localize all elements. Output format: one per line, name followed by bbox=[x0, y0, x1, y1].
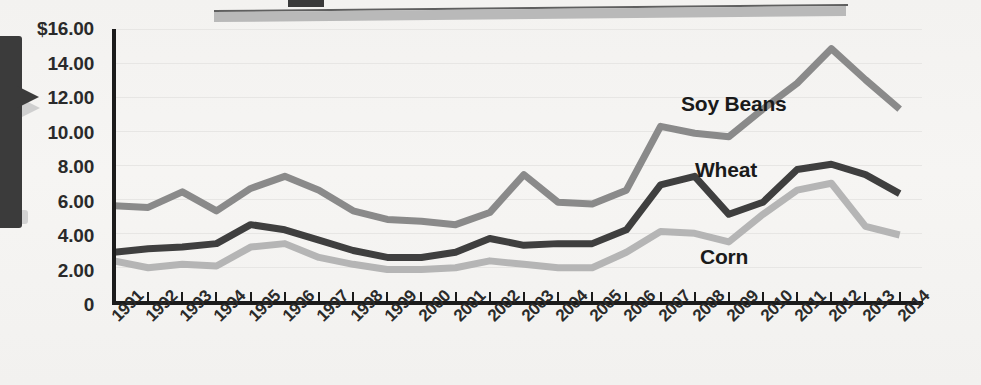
y-axis-tick-labels: 02.004.006.008.0010.0012.0014.00$16.00 bbox=[0, 0, 104, 385]
x-tick-2012 bbox=[830, 292, 832, 302]
x-tick-1996 bbox=[284, 292, 286, 302]
x-tick-1995 bbox=[250, 292, 252, 302]
x-tick-2014 bbox=[899, 292, 901, 302]
series-label-corn: Corn bbox=[700, 245, 748, 269]
x-tick-2003 bbox=[523, 292, 525, 302]
y-tick-label-12: 12.00 bbox=[0, 88, 104, 107]
x-tick-1994 bbox=[215, 292, 217, 302]
x-tick-2008 bbox=[694, 292, 696, 302]
x-tick-1992 bbox=[147, 292, 149, 302]
x-tick-2013 bbox=[864, 292, 866, 302]
plot-area bbox=[114, 28, 914, 304]
x-tick-2005 bbox=[591, 292, 593, 302]
x-tick-2010 bbox=[762, 292, 764, 302]
series-canvas bbox=[114, 28, 914, 304]
y-tick-label-0: 0 bbox=[0, 295, 104, 314]
y-tick-label-8: 8.00 bbox=[0, 157, 104, 176]
x-tick-2011 bbox=[796, 292, 798, 302]
x-tick-1993 bbox=[181, 292, 183, 302]
series-label-soy-beans: Soy Beans bbox=[681, 92, 787, 116]
y-tick-label-14: 14.00 bbox=[0, 54, 104, 73]
x-tick-2007 bbox=[660, 292, 662, 302]
chart-page: 02.004.006.008.0010.0012.0014.00$16.00 1… bbox=[0, 0, 981, 385]
x-tick-1998 bbox=[352, 292, 354, 302]
y-tick-label-4: 4.00 bbox=[0, 226, 104, 245]
x-tick-1999 bbox=[386, 292, 388, 302]
y-axis bbox=[112, 29, 116, 305]
x-tick-1997 bbox=[318, 292, 320, 302]
x-tick-2006 bbox=[625, 292, 627, 302]
y-tick-label-6: 6.00 bbox=[0, 192, 104, 211]
top-banner-chip bbox=[288, 0, 324, 7]
y-tick-label-16: $16.00 bbox=[0, 19, 104, 38]
x-tick-2001 bbox=[455, 292, 457, 302]
x-tick-1991 bbox=[113, 292, 115, 302]
series-label-wheat: Wheat bbox=[695, 158, 757, 182]
series-line-wheat bbox=[114, 164, 900, 257]
x-tick-2004 bbox=[557, 292, 559, 302]
y-tick-label-10: 10.00 bbox=[0, 123, 104, 142]
y-tick-label-2: 2.00 bbox=[0, 261, 104, 280]
x-tick-2000 bbox=[420, 292, 422, 302]
x-tick-2002 bbox=[489, 292, 491, 302]
x-tick-2009 bbox=[728, 292, 730, 302]
